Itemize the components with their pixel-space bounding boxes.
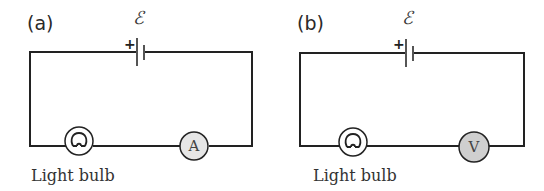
battery-icon bbox=[406, 39, 413, 67]
panel-label: (a) bbox=[27, 12, 53, 34]
light-bulb-icon bbox=[339, 128, 367, 156]
bulb-caption: Light bulb bbox=[313, 166, 397, 185]
wire-right bbox=[145, 52, 252, 146]
circuit-b: (b) ℰ + Light bulb V bbox=[297, 7, 524, 185]
battery-plus-sign: + bbox=[124, 36, 136, 52]
circuit-diagrams: (a) ℰ + Light bulb A (b) ℰ + bbox=[0, 0, 544, 191]
bulb-caption: Light bulb bbox=[31, 166, 115, 185]
light-bulb-icon bbox=[65, 127, 93, 155]
emf-symbol: ℰ bbox=[133, 7, 146, 28]
battery-icon bbox=[137, 38, 144, 66]
panel-label: (b) bbox=[297, 12, 324, 34]
ammeter-icon: A bbox=[180, 132, 208, 160]
voltmeter-icon: V bbox=[459, 132, 489, 162]
meter-letter: A bbox=[188, 137, 200, 155]
emf-symbol: ℰ bbox=[402, 7, 415, 28]
meter-letter: V bbox=[468, 138, 481, 156]
circuit-a: (a) ℰ + Light bulb A bbox=[27, 7, 252, 185]
battery-plus-sign: + bbox=[393, 36, 405, 52]
wire-right bbox=[413, 53, 524, 146]
